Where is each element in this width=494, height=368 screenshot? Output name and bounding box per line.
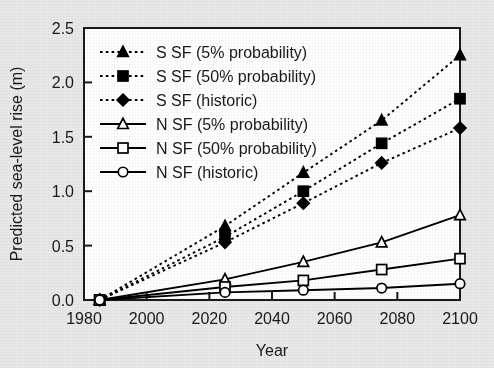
- x-tick-label-2020: 2020: [192, 310, 228, 327]
- x-tick-label-1980: 1980: [66, 310, 102, 327]
- data-point: [455, 279, 465, 289]
- data-point: [298, 275, 308, 285]
- legend-marker-1: [118, 71, 128, 81]
- chart-canvas: 0.00.51.01.52.02.5 198020002020204020602…: [0, 0, 494, 368]
- data-point: [95, 295, 105, 305]
- legend-label-4: N SF (50% probability): [156, 140, 317, 157]
- y-tick-label-1.5: 1.5: [52, 129, 74, 146]
- y-axis-title: Predicted sea-level rise (m): [8, 67, 25, 262]
- x-tick-label-2100: 2100: [442, 310, 478, 327]
- legend-label-2: S SF (historic): [156, 92, 257, 109]
- y-tick-label-1.0: 1.0: [52, 183, 74, 200]
- legend-label-1: S SF (50% probability): [156, 68, 316, 85]
- sea-level-rise-chart: 0.00.51.01.52.02.5 198020002020204020602…: [0, 0, 494, 368]
- x-tick-label-2080: 2080: [380, 310, 416, 327]
- data-point: [299, 285, 309, 295]
- x-tick-label-2000: 2000: [129, 310, 165, 327]
- legend-label-5: N SF (historic): [156, 164, 258, 181]
- data-point: [455, 254, 465, 264]
- data-point: [298, 186, 308, 196]
- data-point: [377, 265, 387, 275]
- y-tick-label-2.0: 2.0: [52, 74, 74, 91]
- data-point: [377, 138, 387, 148]
- y-tick-label-0.0: 0.0: [52, 292, 74, 309]
- y-tick-label-2.5: 2.5: [52, 20, 74, 37]
- data-point: [220, 288, 230, 298]
- y-tick-label-0.5: 0.5: [52, 238, 74, 255]
- legend-label-3: N SF (5% probability): [156, 116, 308, 133]
- x-tick-label-2060: 2060: [317, 310, 353, 327]
- legend-marker-4: [118, 143, 128, 153]
- x-axis-title: Year: [256, 342, 289, 359]
- data-point: [377, 283, 387, 293]
- legend-marker-5: [118, 167, 128, 177]
- data-point: [455, 94, 465, 104]
- x-tick-label-2040: 2040: [254, 310, 290, 327]
- legend-label-0: S SF (5% probability): [156, 44, 307, 61]
